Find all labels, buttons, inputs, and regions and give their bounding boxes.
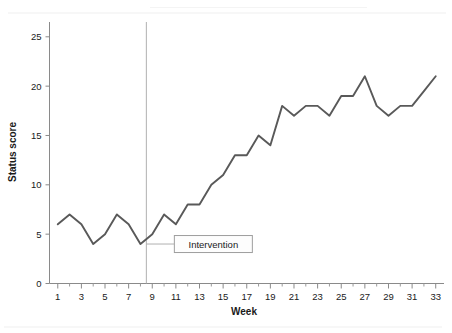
x-tick-label: 23 <box>312 291 323 302</box>
x-tick-label: 7 <box>126 291 131 302</box>
x-tick-label: 33 <box>430 291 441 302</box>
x-tick-label: 5 <box>102 291 107 302</box>
y-tick-label: 0 <box>36 278 41 289</box>
x-tick-label: 15 <box>218 291 229 302</box>
x-tick-label: 19 <box>265 291 276 302</box>
x-tick-label: 17 <box>241 291 252 302</box>
x-tick-label: 11 <box>171 291 181 302</box>
y-tick-label: 10 <box>31 179 42 190</box>
intervention-label-text: Intervention <box>189 239 239 250</box>
y-tick-label: 25 <box>31 31 42 42</box>
x-tick-label: 1 <box>55 291 60 302</box>
y-tick-label: 15 <box>31 130 42 141</box>
x-tick-label: 9 <box>150 291 155 302</box>
x-axis-title: Week <box>231 306 257 317</box>
y-tick-label: 5 <box>36 229 41 240</box>
x-tick-label: 13 <box>194 291 205 302</box>
status-score-line-chart: 0510152025 13579111315171921232527293133… <box>0 0 452 333</box>
x-tick-label: 27 <box>360 291 371 302</box>
chart-figure: 0510152025 13579111315171921232527293133… <box>0 0 452 333</box>
x-tick-label: 25 <box>336 291 347 302</box>
y-tick-label: 20 <box>31 81 42 92</box>
x-tick-label: 21 <box>289 291 300 302</box>
x-tick-label: 3 <box>79 291 84 302</box>
x-tick-label: 31 <box>407 291 418 302</box>
x-tick-label: 29 <box>383 291 394 302</box>
y-axis-title: Status score <box>7 122 18 182</box>
